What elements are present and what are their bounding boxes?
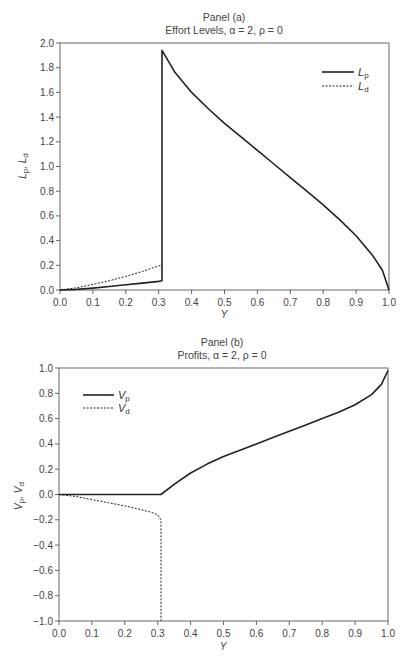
panel-a-title: Effort Levels, α = 2, ρ = 0	[165, 24, 283, 36]
y-tick-label: 0.8	[39, 388, 53, 399]
x-tick-label: 0.6	[250, 297, 264, 308]
series-vd-line	[59, 495, 161, 622]
x-tick-label: 0.2	[118, 628, 132, 639]
legend-vp-label: Vp	[118, 389, 130, 403]
y-tick-label: 1.0	[39, 363, 53, 374]
panel-a-x-ticks: 0.00.10.20.30.40.50.60.70.80.91.0	[53, 290, 396, 308]
panel-b-title: Profits, α = 2, ρ = 0	[177, 349, 266, 361]
x-tick-label: 0.7	[282, 628, 296, 639]
x-tick-label: 0.8	[315, 628, 329, 639]
y-tick-label: −0.4	[33, 540, 53, 551]
y-tick-label: −1.0	[33, 616, 53, 627]
y-tick-label: −0.6	[33, 565, 53, 576]
x-tick-label: 0.2	[119, 297, 133, 308]
x-tick-label: 0.3	[152, 297, 166, 308]
panel-a-x-axis-label: Y	[221, 309, 229, 320]
panel-a-legend: Lp Ld	[322, 66, 369, 94]
panel-b-x-axis-label: Y	[220, 641, 228, 652]
y-tick-label: 0.8	[40, 186, 54, 197]
panel-a-label: Panel (a)	[203, 11, 246, 23]
y-tick-label: 1.6	[40, 87, 54, 98]
x-tick-label: 1.0	[382, 297, 396, 308]
x-tick-label: 0.0	[52, 628, 66, 639]
panel-b-y-ticks: −1.0−0.8−0.6−0.4−0.20.00.20.40.60.81.0	[33, 363, 59, 627]
x-tick-label: 0.1	[86, 297, 100, 308]
panel-a-y-ticks: 0.00.20.40.60.81.01.21.41.61.82.0	[40, 38, 60, 296]
legend-ld-label: Ld	[358, 80, 369, 94]
x-tick-label: 0.4	[184, 628, 198, 639]
x-tick-label: 0.9	[348, 628, 362, 639]
y-tick-label: 0.0	[40, 285, 54, 296]
x-tick-label: 0.1	[85, 628, 99, 639]
x-tick-label: 0.0	[53, 297, 67, 308]
panel-b-y-axis-label: Vp, Vd	[13, 482, 26, 510]
y-tick-label: 0.4	[40, 235, 54, 246]
x-tick-label: 0.3	[151, 628, 165, 639]
panel-a-chart: Panel (a) Effort Levels, α = 2, ρ = 0 0.…	[17, 11, 396, 320]
panel-b-x-ticks: 0.00.10.20.30.40.50.60.70.80.91.0	[52, 621, 395, 639]
chart-figure: Panel (a) Effort Levels, α = 2, ρ = 0 0.…	[0, 0, 407, 659]
x-tick-label: 0.5	[217, 628, 231, 639]
legend-vd-label: Vd	[118, 402, 130, 416]
y-tick-label: 0.4	[39, 438, 53, 449]
y-tick-label: 0.6	[39, 413, 53, 424]
y-tick-label: 0.6	[40, 210, 54, 221]
x-tick-label: 0.4	[185, 297, 199, 308]
x-tick-label: 0.5	[218, 297, 232, 308]
panel-b-chart: Panel (b) Profits, α = 2, ρ = 0 −1.0−0.8…	[13, 336, 395, 652]
x-tick-label: 0.8	[316, 297, 330, 308]
y-tick-label: 0.2	[39, 464, 53, 475]
y-tick-label: 2.0	[40, 38, 54, 49]
y-tick-label: 0.2	[40, 260, 54, 271]
x-tick-label: 0.9	[349, 297, 363, 308]
series-vp-line	[59, 371, 388, 495]
y-tick-label: 0.0	[39, 489, 53, 500]
y-tick-label: 1.4	[40, 112, 54, 123]
y-tick-label: 1.0	[40, 161, 54, 172]
x-tick-label: 0.6	[249, 628, 263, 639]
x-tick-label: 0.7	[283, 297, 297, 308]
y-tick-label: 1.2	[40, 136, 54, 147]
x-tick-label: 1.0	[381, 628, 395, 639]
panel-b-label: Panel (b)	[201, 336, 244, 348]
legend-lp-label: Lp	[358, 66, 369, 80]
y-tick-label: −0.2	[33, 514, 53, 525]
panel-a-plot-frame	[60, 43, 389, 290]
panel-a-y-axis-label: Lp, Ld	[17, 153, 30, 179]
y-tick-label: −0.8	[33, 590, 53, 601]
y-tick-label: 1.8	[40, 62, 54, 73]
panel-b-legend: Vp Vd	[83, 389, 130, 416]
